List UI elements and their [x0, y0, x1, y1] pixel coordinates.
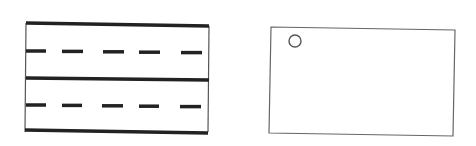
road-left-edge [25, 23, 26, 132]
hole-circle-icon [289, 35, 301, 47]
solid-lane-line [25, 130, 208, 133]
diagram-canvas [0, 0, 476, 146]
card-with-hole-diagram [269, 27, 455, 136]
solid-lane-line [26, 78, 209, 80]
road-lanes-diagram [25, 23, 209, 133]
solid-lane-line [26, 23, 209, 26]
card-rectangle [269, 27, 455, 136]
road-solid-lines [25, 23, 209, 133]
